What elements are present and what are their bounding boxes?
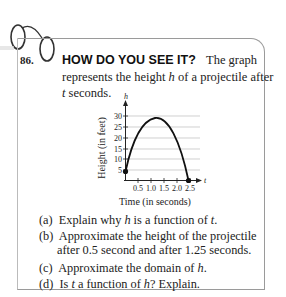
svg-text:10: 10: [114, 155, 122, 164]
svg-text:1.5: 1.5: [159, 184, 169, 193]
gridlines: [126, 116, 200, 170]
question-c: (c) Approximate the domain of h.: [39, 261, 207, 276]
svg-text:15: 15: [114, 145, 122, 154]
svg-text:30: 30: [114, 112, 122, 121]
question-b-line2: after 0.5 second and after 1.25 seconds.: [57, 243, 251, 258]
svg-text:t: t: [204, 176, 207, 185]
question-a: (a) Explain why h is a function of t.: [39, 213, 217, 228]
svg-text:2.0: 2.0: [172, 184, 182, 193]
svg-text:Time (in seconds): Time (in seconds): [119, 196, 191, 208]
svg-text:25: 25: [114, 123, 122, 132]
svg-text:h: h: [124, 92, 128, 101]
svg-text:2.5: 2.5: [185, 184, 195, 193]
svg-text:5: 5: [118, 166, 122, 175]
svg-text:1.0: 1.0: [146, 184, 156, 193]
svg-text:20: 20: [114, 134, 122, 143]
svg-text:Height (in feet): Height (in feet): [96, 117, 108, 179]
svg-text:0.5: 0.5: [133, 184, 143, 193]
question-d: (d) Is t a function of h? Explain.: [39, 277, 200, 292]
question-b: (b) Approximate the height of the projec…: [39, 229, 257, 244]
